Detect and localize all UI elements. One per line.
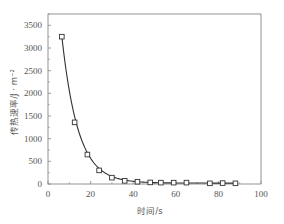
x-axis-title: 时间/s [137, 206, 163, 216]
data-point-square-icon [220, 181, 225, 186]
data-point-square-icon [148, 180, 153, 185]
data-point-square-icon [122, 179, 127, 184]
x-tick-label: 60 [171, 189, 181, 199]
data-point-square-icon [110, 175, 115, 180]
chart: 0204060801000500100015002000250030003500… [0, 0, 284, 224]
axis-ticks: 0204060801000500100015002000250030003500 [24, 14, 268, 199]
data-point-square-icon [184, 180, 189, 185]
y-tick-label: 1500 [24, 111, 43, 121]
data-point-square-icon [171, 180, 176, 185]
x-tick-label: 0 [46, 189, 51, 199]
y-tick-label: 0 [38, 179, 43, 189]
data-point-square-icon [85, 152, 90, 157]
data-point-square-icon [97, 168, 102, 173]
y-tick-label: 2000 [24, 88, 43, 98]
data-point-square-icon [208, 181, 213, 186]
x-tick-label: 40 [129, 189, 139, 199]
y-tick-label: 1000 [24, 134, 43, 144]
data-point-square-icon [72, 120, 77, 125]
fit-curve [62, 37, 238, 183]
x-tick-label: 100 [254, 189, 268, 199]
x-tick-label: 20 [86, 189, 96, 199]
data-points [60, 34, 238, 185]
y-tick-label: 3000 [24, 43, 43, 53]
data-point-square-icon [159, 180, 164, 185]
y-axis-title: 传热速率/J · m⁻² [9, 69, 19, 135]
plot-frame [48, 14, 261, 184]
data-point-square-icon [60, 34, 65, 39]
x-tick-label: 80 [214, 189, 224, 199]
y-tick-label: 500 [29, 156, 43, 166]
data-point-square-icon [135, 179, 140, 184]
data-point-square-icon [233, 181, 238, 186]
y-tick-label: 2500 [24, 66, 43, 76]
y-tick-label: 3500 [24, 20, 43, 30]
